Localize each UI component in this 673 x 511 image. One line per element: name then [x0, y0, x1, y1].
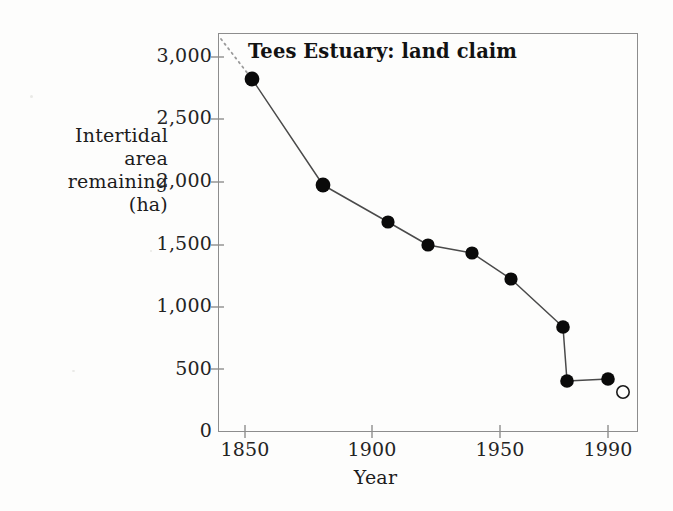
y-tick-label-0: 0 [152, 419, 212, 441]
x-axis-title-text: Year [354, 466, 397, 488]
x-tick-label-1990: 1990 [568, 438, 648, 460]
x-tick-label-1900: 1900 [332, 438, 412, 460]
y-tick-label-2000: 2,000 [152, 169, 212, 191]
y-tick-label-1500: 1,500 [152, 232, 212, 254]
y-axis-title-line-4: (ha) [8, 193, 168, 216]
y-axis-title-line-3: remaining [8, 170, 168, 193]
y-axis-title-line-2: area [8, 147, 168, 170]
y-axis-title: Intertidal area remaining (ha) [8, 124, 168, 216]
x-tick-label-1950: 1950 [460, 438, 540, 460]
chart-figure: Intertidal area remaining (ha) 3,000 2,5… [0, 0, 673, 511]
y-tick-label-500: 500 [152, 357, 212, 379]
chart-title: Tees Estuary: land claim [248, 40, 517, 63]
paper-speckle [72, 370, 75, 372]
y-tick-label-1000: 1,000 [152, 294, 212, 316]
y-tick-label-3000: 3,000 [152, 44, 212, 66]
y-tick-label-2500: 2,500 [152, 106, 212, 128]
y-axis-title-line-1: Intertidal [8, 124, 168, 147]
plot-area [218, 33, 638, 432]
x-tick-label-1850: 1850 [205, 438, 285, 460]
x-axis-title: Year [0, 466, 673, 488]
paper-speckle [30, 95, 33, 98]
